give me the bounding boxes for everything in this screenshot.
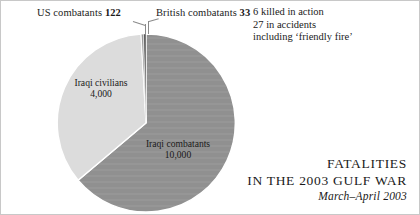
annotation-british-breakdown: 6 killed in action 27 in accidents inclu… (253, 6, 353, 44)
leader-line-british (149, 18, 159, 22)
callout-us-combatants: US combatants 122 (37, 7, 121, 18)
callout-british-value: 33 (240, 7, 251, 18)
annotation-line-3: including ‘friendly fire’ (253, 31, 353, 44)
slice-label-civilians-name: Iraqi civilians (53, 77, 149, 88)
figure-pie-chart-fatalities: US combatants 122 British combatants 33 … (0, 0, 420, 215)
figure-title-line-2: IN THE 2003 GULF WAR (247, 173, 407, 190)
figure-title-line-1: FATALITIES (247, 156, 407, 173)
figure-subtitle: March–April 2003 (247, 189, 407, 204)
slice-label-iraqi-combatants: Iraqi combatants 10,000 (119, 138, 237, 161)
slice-label-combatants-name: Iraqi combatants (119, 138, 237, 149)
callout-us-value: 122 (105, 7, 121, 18)
callout-british-label: British combatants (156, 7, 237, 18)
leader-line-british-vertical (148, 21, 149, 34)
annotation-line-1: 6 killed in action (253, 6, 353, 19)
slice-label-civilians-value: 4,000 (53, 88, 149, 99)
slice-label-iraqi-civilians: Iraqi civilians 4,000 (53, 77, 149, 100)
slice-label-combatants-value: 10,000 (119, 149, 237, 160)
callout-us-label: US combatants (37, 7, 102, 18)
leader-line-us-vertical (145, 24, 146, 35)
leader-line-us (133, 21, 146, 26)
annotation-line-2: 27 in accidents (253, 19, 353, 32)
callout-british-combatants: British combatants 33 (156, 7, 250, 18)
pie-svg (57, 34, 235, 212)
figure-title-block: FATALITIES IN THE 2003 GULF WAR March–Ap… (247, 156, 407, 204)
pie-chart (57, 34, 235, 212)
